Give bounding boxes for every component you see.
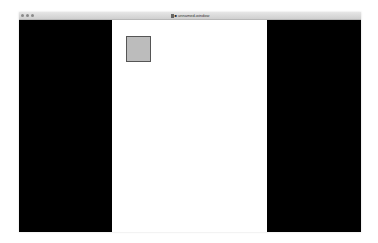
left-black-panel (19, 20, 112, 232)
window-title-text: ■ unnamed-window (175, 13, 210, 18)
document-icon (171, 14, 174, 18)
gray-square-shape[interactable] (126, 36, 151, 62)
canvas-area[interactable] (19, 20, 361, 232)
window-title: ■ unnamed-window (19, 12, 361, 19)
app-window: ■ unnamed-window (19, 12, 361, 232)
title-bar[interactable]: ■ unnamed-window (19, 12, 361, 20)
right-black-panel (267, 20, 361, 232)
